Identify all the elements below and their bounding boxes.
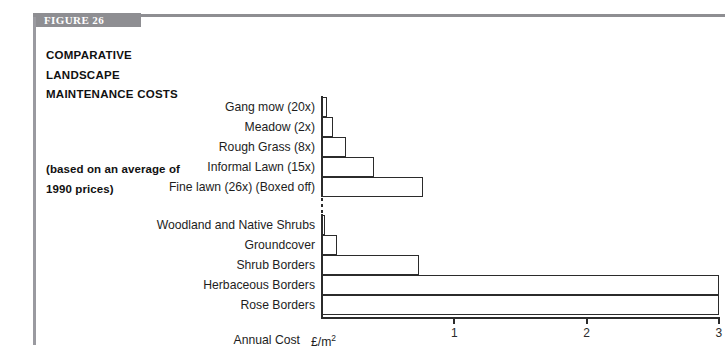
bar <box>322 177 423 197</box>
category-label: Fine lawn (26x) (Boxed off) <box>120 180 315 194</box>
x-tick-label-2: 2 <box>583 326 590 340</box>
bar <box>322 215 325 235</box>
x-tick-label-1: 1 <box>451 326 458 340</box>
x-axis-unit: £/m2 <box>311 333 336 349</box>
x-axis-unit-text: £/m <box>311 335 331 349</box>
bar <box>322 137 346 157</box>
category-label: Herbaceous Borders <box>120 278 315 292</box>
category-label: Informal Lawn (15x) <box>120 160 315 174</box>
x-axis-unit-exponent: 2 <box>331 333 336 343</box>
category-label: Meadow (2x) <box>120 120 315 134</box>
x-tick-label-3: 3 <box>716 326 723 340</box>
bar <box>322 235 337 255</box>
bar <box>322 117 333 137</box>
bar <box>322 275 719 295</box>
category-label: Gang mow (20x) <box>120 100 315 114</box>
category-label: Groundcover <box>120 238 315 252</box>
category-label: Woodland and Native Shrubs <box>120 218 315 232</box>
bar <box>322 157 374 177</box>
x-tick-1 <box>453 317 455 324</box>
x-axis-title: Annual Cost <box>185 333 300 347</box>
category-label: Shrub Borders <box>120 258 315 272</box>
bar <box>322 255 419 275</box>
chart-plot-area: 123 Gang mow (20x)Meadow (2x)Rough Grass… <box>0 0 725 363</box>
bar <box>322 295 719 315</box>
bar <box>322 97 327 117</box>
figure-root: FIGURE 26 COMPARATIVE LANDSCAPE MAINTENA… <box>0 0 725 363</box>
x-axis <box>321 317 719 319</box>
category-label: Rough Grass (8x) <box>120 140 315 154</box>
x-tick-3 <box>718 317 720 324</box>
x-tick-2 <box>586 317 588 324</box>
axis-break-dashed <box>321 198 323 213</box>
category-label: Rose Borders <box>120 298 315 312</box>
